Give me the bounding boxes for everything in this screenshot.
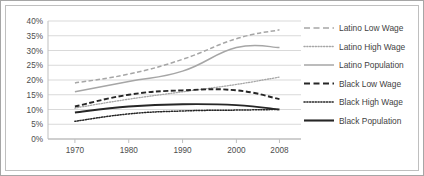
legend-label: Latino Population — [339, 60, 404, 70]
y-tick-label: 30% — [27, 47, 43, 56]
x-tick-label: 2000 — [227, 146, 246, 155]
x-axis-tick-labels: 19701980199020002008 — [66, 146, 289, 155]
x-axis-ticks — [75, 139, 280, 143]
y-tick-label: 15% — [27, 91, 43, 100]
series-line-latino-population — [75, 45, 280, 92]
y-tick-label: 20% — [27, 76, 43, 85]
y-tick-label: 10% — [27, 106, 43, 115]
y-tick-label: 5% — [31, 120, 43, 129]
series-lines — [75, 30, 280, 121]
x-tick-label: 1980 — [120, 146, 139, 155]
y-tick-label: 0% — [31, 135, 43, 144]
series-line-latino-low-wage — [75, 30, 280, 83]
y-tick-label: 25% — [27, 61, 43, 70]
legend-label: Black Low Wage — [339, 79, 401, 89]
chart-legend: Latino Low WageLatino High WageLatino Po… — [304, 23, 406, 126]
x-tick-label: 1970 — [66, 146, 85, 155]
x-tick-label: 1990 — [173, 146, 192, 155]
legend-label: Black High Wage — [339, 97, 403, 107]
line-chart: 0%5%10%15%20%25%30%35%40% 19701980199020… — [1, 1, 424, 176]
legend-label: Black Population — [339, 116, 402, 126]
series-line-black-high-wage — [75, 110, 280, 122]
y-tick-label: 40% — [27, 17, 43, 26]
legend-label: Latino High Wage — [339, 42, 406, 52]
y-axis-tick-labels: 0%5%10%15%20%25%30%35%40% — [27, 17, 43, 144]
chart-figure: 0%5%10%15%20%25%30%35%40% 19701980199020… — [0, 0, 424, 176]
legend-label: Latino Low Wage — [339, 23, 404, 33]
x-tick-label: 2008 — [270, 146, 289, 155]
y-tick-label: 35% — [27, 32, 43, 41]
